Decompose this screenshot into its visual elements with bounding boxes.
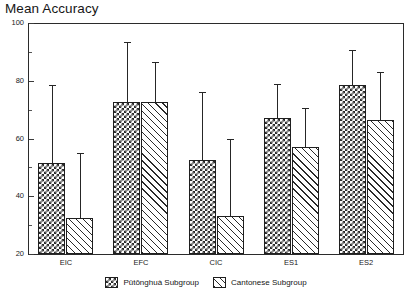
error-bar-stem-efc-series2 (155, 62, 156, 102)
error-bar-stem-eic-series1 (52, 85, 53, 163)
error-bar-stem-es2-series1 (352, 50, 353, 85)
y-tick-label-80: 80 (16, 77, 24, 85)
bar-eic-series1[interactable] (38, 163, 65, 254)
bar-efc-series1[interactable] (113, 102, 140, 254)
error-bar-cap-cic-series2 (227, 139, 234, 140)
x-tick-label-cic: CIC (186, 258, 246, 267)
frame-top-border (28, 23, 404, 24)
bar-es2-series2[interactable] (367, 120, 394, 254)
legend-swatch-checker-icon (105, 277, 118, 288)
error-bar-stem-es1-series1 (277, 84, 278, 119)
y-tick-label-60: 60 (16, 135, 24, 143)
legend-label-1: Pǔtōnghuà Subgroup (123, 278, 199, 288)
error-bar-stem-eic-series2 (80, 153, 81, 218)
error-bar-stem-es1-series2 (305, 108, 306, 147)
legend-label-2: Cantonese Subgroup (231, 278, 307, 288)
bar-eic-series2[interactable] (66, 218, 93, 254)
error-bar-stem-es2-series2 (380, 72, 381, 120)
legend-item-2[interactable]: Cantonese Subgroup (213, 277, 307, 288)
error-bar-cap-es2-series2 (377, 72, 384, 73)
y-tick-label-100: 100 (11, 19, 24, 27)
x-axis-line (28, 254, 404, 255)
bar-es2-series1[interactable] (339, 85, 366, 254)
y-minor-tick-30 (29, 225, 32, 226)
legend-swatch-hatch-icon (213, 277, 226, 288)
frame-right-border (403, 23, 404, 254)
error-bar-cap-cic-series1 (199, 92, 206, 93)
error-bar-stem-efc-series1 (127, 42, 128, 103)
x-tick-label-es1: ES1 (261, 258, 321, 267)
error-bar-stem-cic-series2 (230, 139, 231, 217)
error-bar-cap-eic-series1 (49, 85, 56, 86)
error-bar-stem-cic-series1 (202, 92, 203, 160)
x-tick-label-eic: EIC (36, 258, 96, 267)
error-bar-cap-es1-series2 (302, 108, 309, 109)
y-minor-tick-50 (29, 167, 32, 168)
chart-figure: Mean Accuracy 20406080100 EICEFCCICES1ES… (0, 0, 412, 299)
error-bar-cap-eic-series2 (77, 153, 84, 154)
bar-cic-series1[interactable] (189, 160, 216, 254)
y-tick-80 (29, 81, 34, 82)
bar-es1-series1[interactable] (264, 118, 291, 254)
error-bar-cap-es2-series1 (349, 50, 356, 51)
legend-item-1[interactable]: Pǔtōnghuà Subgroup (105, 277, 199, 288)
y-minor-tick-70 (29, 110, 32, 111)
x-tick-label-efc: EFC (111, 258, 171, 267)
bar-efc-series2[interactable] (141, 102, 168, 254)
y-tick-40 (29, 196, 34, 197)
chart-legend: Pǔtōnghuà SubgroupCantonese Subgroup (0, 277, 412, 288)
bar-es1-series2[interactable] (292, 147, 319, 254)
y-tick-60 (29, 139, 34, 140)
y-minor-tick-90 (29, 52, 32, 53)
y-tick-100 (29, 23, 34, 24)
y-tick-20 (29, 254, 34, 255)
error-bar-cap-es1-series1 (274, 84, 281, 85)
error-bar-cap-efc-series1 (124, 42, 131, 43)
error-bar-cap-efc-series2 (152, 62, 159, 63)
chart-title: Mean Accuracy (5, 1, 99, 16)
y-tick-label-40: 40 (16, 192, 24, 200)
x-tick-label-es2: ES2 (336, 258, 396, 267)
bar-cic-series2[interactable] (217, 216, 244, 254)
y-tick-label-20: 20 (16, 250, 24, 258)
